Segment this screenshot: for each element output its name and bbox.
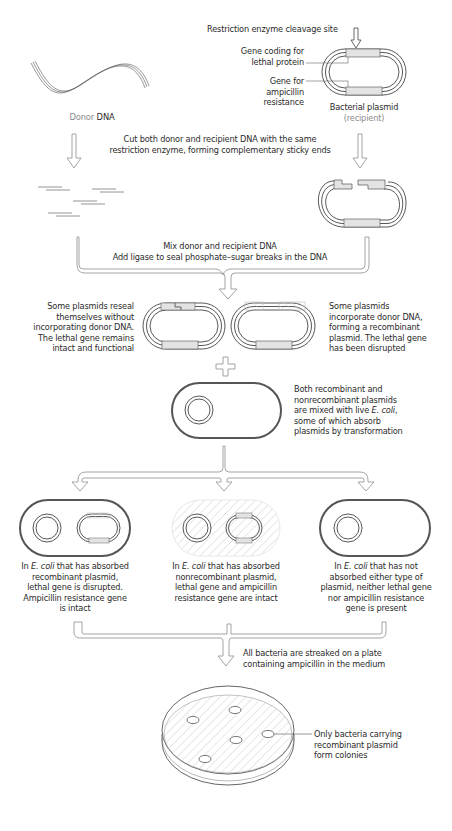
colony-icon [229,706,241,713]
donor-insert-segment [279,302,305,310]
cell-1-caption: In E. coli that has absorbedrecombinant … [8,561,142,614]
branch-arrow-icon [72,446,374,491]
mix-instruction: Mix donor and recipient DNAAdd ligase to… [90,241,350,262]
caption-rest: nonrecombinant plasmid, lethal gene and … [175,572,278,603]
caption-first-line: that has absorbed [54,561,129,571]
ecoli-italic: E. coli [182,561,205,571]
caption-rest: absorbed either type of plasmid, neither… [320,572,431,614]
donor-insert-segment [245,302,263,310]
ecoli-no-plasmid-cell [320,500,430,556]
plasmid-label: Bacterial plasmid [316,102,412,113]
note-line-4: some of which absorb [294,416,381,426]
caption-first-line: that has absorbed [205,561,280,571]
reseal-note: Some plasmids reseal themselves without … [10,301,134,354]
note-line-3-suffix: , [395,405,397,415]
resealed-lethal-gene [161,303,195,310]
colony-icon [199,755,211,762]
cleavage-site-label: Restriction enzyme cleavage site [207,24,357,35]
donor-dna-icon [31,61,149,93]
plus-icon [216,357,235,376]
ecoli-recombinant-cell [20,500,130,556]
colony-icon [230,736,242,743]
caption-first-line: that has not [367,561,417,571]
note-line-3-prefix: are mixed with live [294,405,372,415]
sticky-end-left [334,180,352,189]
nonrecombinant-plasmid-small-icon [226,515,262,541]
donor-label-prefix: Donor [69,112,94,122]
down-arrow-icon [67,134,81,168]
lethal-gene-label: Gene coding for lethal protein [220,46,304,67]
ecoli-italic: E. coli [372,405,395,415]
ecoli-italic: E. coli [344,561,367,571]
sticky-end-right [358,180,385,189]
colony-icon [187,716,199,723]
amp-gene-label: Gene for ampicillin resistance [220,76,304,108]
mix-line-1: Mix donor and recipient DNA [163,241,277,251]
lethal-gene-segment [236,513,252,518]
caption-prefix: In [334,561,344,571]
transformation-note: Both recombinant andnonrecombinant plasm… [294,384,444,437]
colony-note: Only bacteria carrying recombinant plasm… [314,729,434,761]
donor-dna-label: Donor DNA [60,112,124,123]
note-line-2: nonrecombinant plasmids [294,395,397,405]
plasmid-sublabel: (recipient) [316,113,412,124]
cell-2-caption: In E. coli that has absorbednonrecombina… [158,561,294,603]
colony-icon [262,730,274,737]
caption-prefix: In [21,561,31,571]
amp-resistance-gene-segment [89,538,109,543]
caption-prefix: In [172,561,182,571]
amp-resistance-gene-segment [346,87,382,95]
ecoli-italic: E. coli [31,561,54,571]
lethal-gene-segment [346,49,380,57]
chromosome-inner [186,517,208,539]
mix-line-2: Add ligase to seal phosphate–sugar break… [113,252,328,262]
cut-instruction: Cut both donor and recipient DNA with th… [90,134,350,155]
streak-instruction: All bacteria are streaked on a plate con… [243,648,423,669]
amp-resistance-gene-segment [344,219,380,227]
down-arrow-icon [353,134,367,168]
donor-label-main: DNA [97,112,115,122]
cell-3-caption: In E. coli that has notabsorbed either t… [308,561,444,614]
petri-dish-icon [162,686,294,785]
donor-fragments-icon [38,187,124,216]
recombinant-note: Some plasmids incorporate donor DNA, for… [329,301,449,354]
amp-resistance-gene-segment [236,538,252,543]
caption-rest: recombinant plasmid, lethal gene is disr… [23,572,127,614]
amp-resistance-gene-segment [256,341,292,349]
note-line-1: Both recombinant and [294,384,382,394]
note-line-5: plasmids by transformation [294,426,403,436]
donor-insert-segment [87,513,109,518]
amp-resistance-gene-segment [162,341,198,349]
